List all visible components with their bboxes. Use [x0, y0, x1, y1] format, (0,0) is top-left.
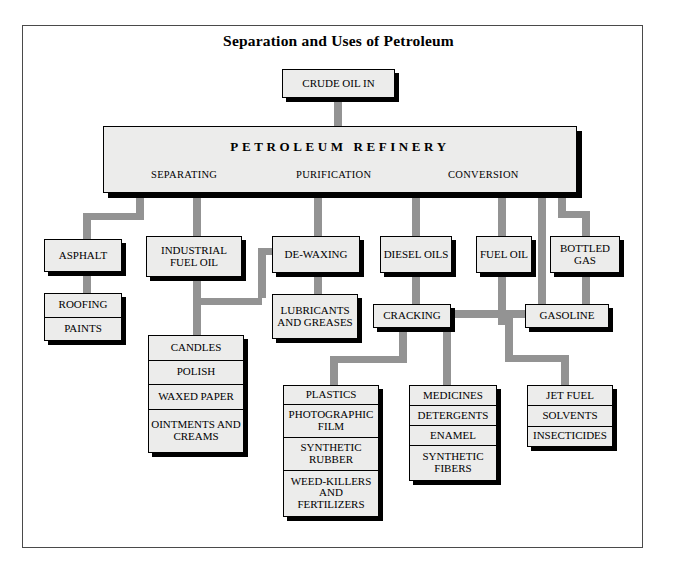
- node-crude-oil-in-label: CRUDE OIL IN: [300, 78, 376, 90]
- stack-item-label: ENAMEL: [428, 430, 478, 442]
- list-item[interactable]: SYNTHETIC FIBERS: [410, 446, 496, 480]
- list-item[interactable]: JET FUEL: [528, 386, 612, 406]
- connector-dewax-left-v: [258, 248, 266, 298]
- list-item[interactable]: MEDICINES: [410, 386, 496, 406]
- stack-item-label: INSECTICIDES: [531, 430, 609, 442]
- node-crude-oil-in[interactable]: CRUDE OIL IN: [282, 69, 395, 98]
- connector-dewax-to-lubricants: [314, 273, 322, 295]
- connector-cracking-to-medicines: [443, 327, 451, 386]
- node-industrial-fuel-oil-label: INDUSTRIAL FUEL OIL: [147, 245, 241, 269]
- node-petroleum-refinery[interactable]: PETROLEUM REFINERY SEPARATING PURIFICATI…: [103, 126, 577, 193]
- node-asphalt[interactable]: ASPHALT: [44, 239, 122, 272]
- list-item[interactable]: OINTMENTS AND CREAMS: [149, 410, 243, 452]
- node-fuel-oil-label: FUEL OIL: [478, 249, 530, 261]
- connector-refinery-stem-6: [538, 192, 546, 309]
- stack-item-label: OINTMENTS AND CREAMS: [149, 419, 243, 442]
- stack-item-label: SYNTHETIC RUBBER: [284, 442, 378, 465]
- stack-item-label: WEED-KILLERS AND FERTILIZERS: [284, 476, 378, 511]
- list-item[interactable]: WAXED PAPER: [149, 385, 243, 410]
- connector-stem7-to-bottled: [582, 211, 590, 239]
- connector-refinery-stem-2: [193, 192, 201, 238]
- connector-asphalt-to-roofing: [83, 272, 91, 294]
- list-item[interactable]: POLISH: [149, 361, 243, 386]
- node-de-waxing[interactable]: DE-WAXING: [272, 236, 360, 273]
- stack-item-label: PLASTICS: [304, 389, 359, 401]
- connector-cracking-to-plastics: [330, 356, 338, 386]
- node-gasoline[interactable]: GASOLINE: [525, 304, 609, 328]
- node-gasoline-label: GASOLINE: [538, 310, 597, 322]
- stack-item-label: SOLVENTS: [540, 410, 599, 422]
- list-item[interactable]: SOLVENTS: [528, 406, 612, 426]
- node-bottled-gas[interactable]: BOTTLED GAS: [550, 236, 620, 273]
- stack-wax-products[interactable]: CANDLES POLISH WAXED PAPER OINTMENTS AND…: [148, 335, 244, 453]
- diagram-canvas: Separation and Uses of Petroleum: [0, 0, 677, 579]
- node-fuel-oil[interactable]: FUEL OIL: [476, 236, 532, 273]
- list-item[interactable]: INSECTICIDES: [528, 427, 612, 446]
- stack-item-label: POLISH: [175, 366, 218, 378]
- stack-fuel-products[interactable]: JET FUEL SOLVENTS INSECTICIDES: [527, 385, 613, 447]
- node-cracking[interactable]: CRACKING: [373, 304, 451, 328]
- list-item[interactable]: ROOFING: [45, 294, 121, 318]
- list-item[interactable]: DETERGENTS: [410, 406, 496, 426]
- stack-item-label: DETERGENTS: [416, 410, 491, 422]
- node-de-waxing-label: DE-WAXING: [283, 249, 350, 261]
- stack-item-label: MEDICINES: [421, 390, 485, 402]
- connector-bottled-to-gasoline: [582, 273, 590, 305]
- stack-plastics-products[interactable]: PLASTICS PHOTOGRAPHIC FILM SYNTHETIC RUB…: [283, 385, 379, 517]
- connector-gasoline-h-jet: [505, 355, 569, 362]
- stack-item-label: CANDLES: [169, 342, 224, 354]
- stack-item-label: SYNTHETIC FIBERS: [410, 451, 496, 474]
- node-cracking-label: CRACKING: [381, 310, 442, 322]
- node-bottled-gas-label: BOTTLED GAS: [551, 243, 619, 267]
- connector-refinery-stem-5: [498, 192, 506, 238]
- stack-item-label: PAINTS: [62, 323, 104, 335]
- connector-stem1-to-asphalt: [83, 213, 91, 241]
- refinery-title: PETROLEUM REFINERY: [104, 139, 576, 155]
- stack-item-label: WAXED PAPER: [156, 391, 236, 403]
- list-item[interactable]: PAINTS: [45, 318, 121, 341]
- node-lubricants-label: LUBRICANTS AND GREASES: [273, 305, 357, 329]
- connector-stem1-horizontal: [83, 213, 144, 220]
- connector-refinery-stem-3: [314, 192, 322, 238]
- list-item[interactable]: CANDLES: [149, 336, 243, 361]
- node-lubricants-and-greases[interactable]: LUBRICANTS AND GREASES: [272, 294, 358, 339]
- node-diesel-oils-label: DIESEL OILS: [382, 249, 451, 261]
- stack-medicines-products[interactable]: MEDICINES DETERGENTS ENAMEL SYNTHETIC FI…: [409, 385, 497, 481]
- stack-item-label: PHOTOGRAPHIC FILM: [284, 409, 378, 432]
- refinery-section-separating: SEPARATING: [151, 169, 217, 180]
- node-industrial-fuel-oil[interactable]: INDUSTRIAL FUEL OIL: [146, 236, 242, 277]
- list-item[interactable]: ENAMEL: [410, 426, 496, 446]
- connector-refinery-stem-4: [412, 192, 420, 238]
- node-asphalt-label: ASPHALT: [57, 250, 110, 262]
- connector-cracking-h-plastics: [330, 356, 407, 363]
- refinery-section-purification: PURIFICATION: [296, 169, 371, 180]
- page-title: Separation and Uses of Petroleum: [0, 32, 677, 50]
- stack-item-label: JET FUEL: [544, 390, 596, 402]
- list-item[interactable]: SYNTHETIC RUBBER: [284, 438, 378, 471]
- connector-gasoline-to-jet: [561, 355, 569, 387]
- node-diesel-oils[interactable]: DIESEL OILS: [380, 236, 452, 273]
- list-item[interactable]: PLASTICS: [284, 386, 378, 405]
- list-item[interactable]: WEED-KILLERS AND FERTILIZERS: [284, 471, 378, 516]
- connector-dewax-left-h2: [196, 298, 262, 305]
- stack-item-label: ROOFING: [57, 299, 110, 311]
- refinery-section-conversion: CONVERSION: [448, 169, 519, 180]
- list-item[interactable]: PHOTOGRAPHIC FILM: [284, 405, 378, 438]
- stack-asphalt-products[interactable]: ROOFING PAINTS: [44, 293, 122, 341]
- connector-diesel-to-cracking: [412, 273, 420, 305]
